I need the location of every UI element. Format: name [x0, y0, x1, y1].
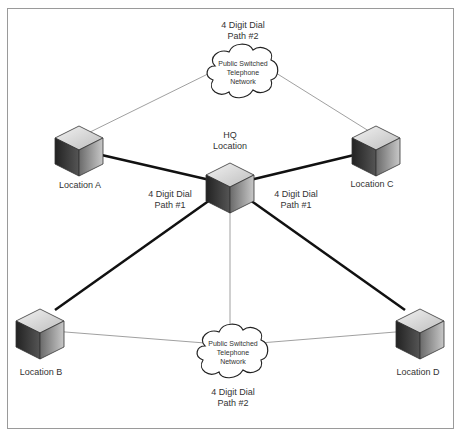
left-path1-label: 4 Digit Dial: [148, 189, 192, 199]
top-path-label-2: Path #2: [227, 31, 258, 41]
location-d-label: Location D: [396, 367, 440, 377]
location-d-node: [396, 309, 444, 359]
left-path1-label-2: Path #1: [154, 200, 185, 210]
location-b-node: [16, 309, 64, 359]
svg-text:Network: Network: [220, 358, 246, 365]
svg-text:Public Switched: Public Switched: [218, 60, 268, 67]
pstn-cloud-top: Public Switched Telephone Network: [207, 44, 278, 98]
bottom-path-label: 4 Digit Dial: [211, 387, 255, 397]
hq-node: [206, 163, 254, 213]
right-path1-label: 4 Digit Dial: [274, 189, 318, 199]
hq-label-2: Location: [213, 141, 247, 151]
location-a-label: Location A: [59, 180, 101, 190]
location-a-node: [55, 126, 103, 176]
location-b-label: Location B: [20, 367, 63, 377]
hq-label: HQ: [223, 130, 237, 140]
bottom-path-label-2: Path #2: [217, 398, 248, 408]
location-c-node: [352, 126, 400, 176]
svg-text:Public Switched: Public Switched: [208, 340, 258, 347]
location-c-label: Location C: [350, 179, 394, 189]
svg-text:Telephone: Telephone: [227, 69, 259, 77]
top-path-label: 4 Digit Dial: [221, 20, 265, 30]
network-diagram: Public Switched Telephone Network 4 Digi…: [0, 0, 462, 433]
svg-text:Network: Network: [230, 78, 256, 85]
pstn-cloud-bottom: Public Switched Telephone Network: [197, 324, 268, 378]
svg-text:Telephone: Telephone: [217, 349, 249, 357]
right-path1-label-2: Path #1: [280, 200, 311, 210]
